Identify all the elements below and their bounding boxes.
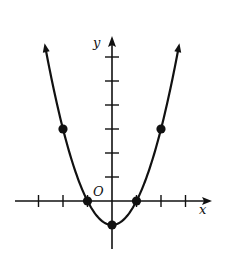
data-point (83, 196, 92, 205)
data-point (156, 124, 165, 133)
data-point (132, 196, 141, 205)
origin-label: O (93, 184, 104, 199)
y-axis-label: y (92, 35, 101, 50)
x-axis-label: x (199, 202, 207, 217)
data-point (107, 220, 116, 229)
data-point (58, 124, 67, 133)
axes (15, 36, 212, 249)
curve-arrow-icon (43, 43, 50, 52)
parabola-graph: x y O (0, 0, 228, 264)
curve-arrow-icon (174, 43, 181, 52)
